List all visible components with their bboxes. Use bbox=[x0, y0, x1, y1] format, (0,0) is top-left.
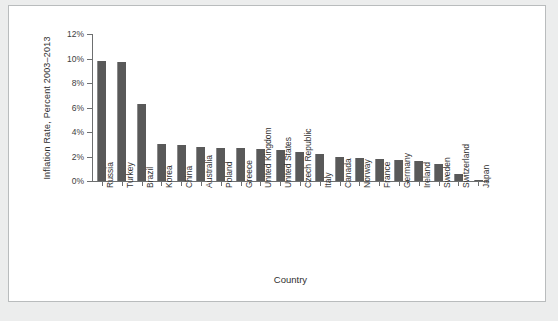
x-axis-category-label-text: Switzerland bbox=[462, 144, 471, 188]
y-axis-tick-mark bbox=[87, 157, 92, 158]
x-axis-tick-mark bbox=[300, 182, 301, 186]
x-axis-tick-mark bbox=[122, 182, 123, 186]
x-axis-tick-mark bbox=[359, 182, 360, 186]
x-axis-tick-mark bbox=[419, 182, 420, 186]
chart-card: Inflation Rate, Percent 2003–2013 0%2%4%… bbox=[8, 5, 546, 302]
x-axis-category-label-text: United Kingdom bbox=[264, 128, 273, 188]
y-axis-tick-mark bbox=[87, 83, 92, 84]
x-axis-category-label-text: Australia bbox=[205, 155, 214, 188]
x-axis-tick-mark bbox=[161, 182, 162, 186]
x-axis-tick-mark bbox=[439, 182, 440, 186]
y-axis-title-label: Inflation Rate, Percent 2003–2013 bbox=[42, 36, 52, 179]
x-axis-tick-mark bbox=[241, 182, 242, 186]
x-axis-category-label-text: Norway bbox=[363, 159, 372, 188]
y-axis-tick-mark bbox=[87, 108, 92, 109]
x-axis-tick-mark bbox=[379, 182, 380, 186]
x-axis-category-label-text: Russia bbox=[106, 162, 115, 188]
x-axis-category-label-text: France bbox=[383, 162, 392, 188]
x-axis-tick-mark bbox=[320, 182, 321, 186]
x-axis-category-label-text: Korea bbox=[165, 165, 174, 188]
x-axis-category-label-text: Sweden bbox=[443, 157, 452, 188]
y-axis-tick-label: 8% bbox=[72, 79, 84, 88]
x-axis-category-label-text: Germany bbox=[403, 153, 412, 188]
y-axis-tick-label: 4% bbox=[72, 128, 84, 137]
y-axis-tick-mark bbox=[87, 181, 92, 182]
x-axis-category-label-text: Greece bbox=[245, 160, 254, 188]
y-axis-title: Inflation Rate, Percent 2003–2013 bbox=[40, 34, 54, 182]
y-axis-tick-mark bbox=[87, 59, 92, 60]
x-axis-category-label-text: United States bbox=[284, 137, 293, 188]
y-axis-tick-label: 12% bbox=[67, 30, 84, 39]
y-axis-tick-label: 0% bbox=[72, 177, 84, 186]
x-axis-tick-mark bbox=[181, 182, 182, 186]
x-axis-tick-mark bbox=[102, 182, 103, 186]
x-axis-category-label-text: Turkey bbox=[126, 162, 135, 188]
x-axis-tick-mark bbox=[221, 182, 222, 186]
x-axis-category-label-text: Italy bbox=[324, 172, 333, 188]
x-axis-category-label-text: Canada bbox=[344, 158, 353, 188]
x-axis-tick-mark bbox=[201, 182, 202, 186]
x-axis-tick-mark bbox=[280, 182, 281, 186]
y-axis-tick-label: 2% bbox=[72, 152, 84, 161]
x-axis-tick-mark bbox=[458, 182, 459, 186]
chart-page: Inflation Rate, Percent 2003–2013 0%2%4%… bbox=[0, 0, 558, 321]
x-axis-category-label-text: Poland bbox=[225, 162, 234, 188]
x-axis-category-label-text: Czech Republic bbox=[304, 128, 313, 188]
x-axis-title: Country bbox=[92, 274, 489, 285]
x-axis-tick-mark bbox=[260, 182, 261, 186]
y-axis-tick-label: 6% bbox=[72, 103, 84, 112]
x-axis-category-label-text: Japan bbox=[482, 165, 491, 188]
y-axis-tick-mark bbox=[87, 132, 92, 133]
y-axis-tick-mark bbox=[87, 34, 92, 35]
y-axis-tick-label: 10% bbox=[67, 54, 84, 63]
x-axis-tick-mark bbox=[142, 182, 143, 186]
x-axis-category-label-text: Brazil bbox=[146, 167, 155, 188]
x-axis-category-label-text: Ireland bbox=[423, 162, 432, 188]
x-axis-tick-mark bbox=[340, 182, 341, 186]
x-axis-category-label-text: China bbox=[185, 166, 194, 188]
x-axis-tick-mark bbox=[478, 182, 479, 186]
x-axis-tick-mark bbox=[399, 182, 400, 186]
